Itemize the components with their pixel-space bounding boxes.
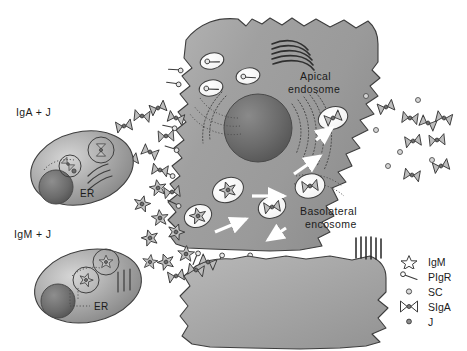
- j-chain-dot-icon: [396, 314, 422, 329]
- lumen-sc-group: [364, 94, 435, 169]
- iga-plasma-cell-nucleus: [39, 170, 73, 204]
- legend-label-sc: SC: [422, 286, 443, 298]
- adjacent-epithelial-cell: [180, 256, 388, 349]
- epithelial-nucleus: [224, 94, 292, 162]
- legend-item-siga: SIgA: [396, 299, 466, 314]
- legend-label-pigr: PIgR: [422, 271, 451, 283]
- basolateral-endosome-label-line2: encosome: [305, 218, 357, 231]
- legend-label-igm: IgM: [422, 256, 446, 268]
- legend-label-siga: SIgA: [422, 301, 451, 313]
- legend-label-j: J: [422, 316, 433, 328]
- apical-endosome-label-line2: endosome: [288, 83, 340, 96]
- lumen-siga-group: [377, 99, 452, 181]
- plasma2-released-igm: [142, 253, 159, 269]
- igm-star-icon: [396, 254, 422, 269]
- microvilli: [356, 237, 381, 259]
- igm-plasma-cell-nucleus: [41, 284, 75, 318]
- igm-cell-er-label: ER: [94, 301, 109, 312]
- sc-circle-icon: [396, 284, 422, 299]
- legend: IgM PIgR SC SIgA: [396, 254, 466, 329]
- figure-canvas: IgA + J IgM + J ER ER Apical endosome Ba…: [0, 0, 467, 351]
- legend-item-sc: SC: [396, 284, 466, 299]
- siga-bowtie-icon: [396, 299, 422, 314]
- iga-plasma-cell-label: IgA + J: [16, 106, 51, 118]
- legend-item-j: J: [396, 314, 466, 329]
- basolateral-endosome-label-line1: Basolateral: [300, 205, 357, 218]
- legend-item-igm: IgM: [396, 254, 466, 269]
- apical-endosome-label-line1: Apical: [300, 70, 331, 83]
- iga-plasma-cell: [23, 120, 141, 215]
- pigr-hook-icon: [396, 269, 422, 284]
- iga-cell-er-label: ER: [80, 188, 95, 199]
- legend-item-pigr: PIgR: [396, 269, 466, 284]
- igm-plasma-cell-label: IgM + J: [14, 228, 52, 240]
- igm-plasma-cell: [28, 240, 149, 333]
